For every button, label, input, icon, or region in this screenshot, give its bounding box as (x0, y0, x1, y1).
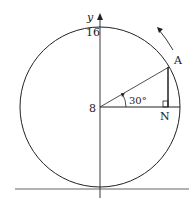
top-value-label: 16 (86, 26, 100, 39)
y-axis-arrow-icon (97, 13, 103, 20)
rotation-arrow (159, 30, 173, 50)
circle-diagram: y 16 8 A N 30° (0, 0, 195, 207)
rotation-arrow-icon (157, 27, 163, 33)
point-a-label: A (173, 54, 183, 67)
point-n-label: N (160, 110, 170, 123)
center-value-label: 8 (89, 102, 96, 115)
angle-label: 30° (129, 95, 147, 106)
angle-arrow-icon (121, 93, 125, 97)
y-axis-label: y (86, 11, 94, 24)
angle-arc (123, 94, 127, 107)
